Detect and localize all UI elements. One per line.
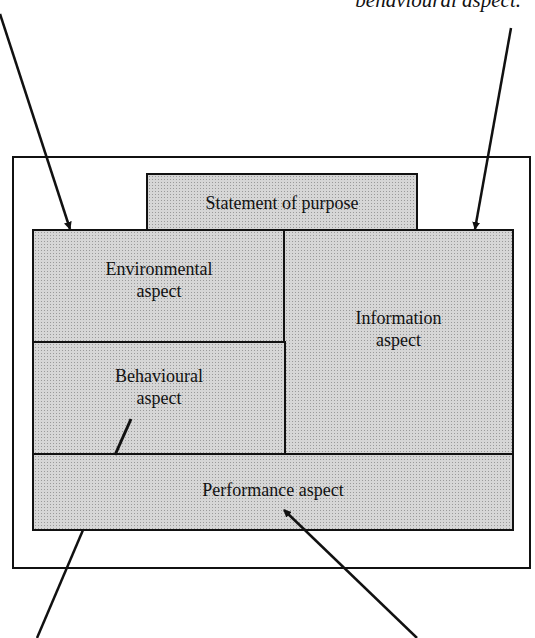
arrow-to-information [475, 28, 511, 229]
pointer-left-bottom [37, 530, 83, 638]
diagram-canvas: behavioural aspect. Statement of purpose… [0, 0, 535, 638]
arrow-to-environmental [0, 14, 70, 229]
pointer-lines [0, 0, 535, 638]
arrow-to-performance [284, 510, 417, 638]
pointer-behavioural [115, 419, 131, 455]
